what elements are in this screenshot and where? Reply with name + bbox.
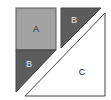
label-c: C: [79, 67, 86, 77]
label-b-bottom: B: [26, 59, 32, 69]
geometry-diagram: A B B C: [0, 0, 111, 100]
shape-a-square: A: [16, 8, 56, 50]
label-a: A: [33, 24, 39, 34]
label-b-top: B: [71, 15, 77, 25]
